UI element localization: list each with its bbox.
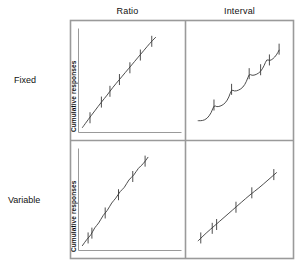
panel-fixed-ratio <box>82 36 155 128</box>
panel-frame <box>71 21 294 259</box>
cumulative-response-curve <box>82 37 155 127</box>
cumulative-response-curve <box>198 173 276 241</box>
axis-rules-fixed-ratio <box>79 29 182 133</box>
cumulative-response-curve <box>198 50 279 121</box>
panel-fixed-interval <box>198 44 279 121</box>
cumulative-record-plot <box>0 0 302 267</box>
panel-variable-ratio <box>82 156 148 246</box>
panel-variable-interval <box>198 169 276 243</box>
figure-container: Ratio Interval Fixed Variable Cumulative… <box>0 0 302 267</box>
axis-rules-variable-ratio <box>79 149 182 251</box>
